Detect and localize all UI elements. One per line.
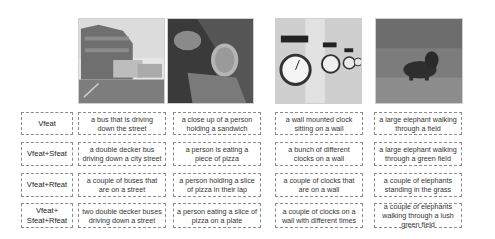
caption-cell: a couple of clocks on a wall with differ… [275,203,363,228]
caption-cell: a large elephant walking through a field [374,112,462,135]
image-street-buses [78,18,165,104]
caption-cell: a person is eating a piece of pizza [173,142,261,166]
caption-cell: a person holding a slice of pizza in the… [173,173,261,197]
image-elephant-field [375,18,463,104]
method-label-vfeat-sfeat: Vfeat+Sfeat [21,142,73,166]
image-wall-clocks [275,18,362,104]
method-label-vfeat-rfeat: Vfeat+Rfeat [21,173,73,197]
caption-cell: two double decker buses driving down a s… [78,203,166,228]
caption-cell: a person eating a slice of pizza on a pl… [173,203,261,228]
caption-cell: a close up of a person holding a sandwic… [173,112,261,135]
caption-cell: a bus that is driving down the street [78,112,166,135]
caption-cell: a wall mounted clock sitting on a wall [275,112,363,135]
caption-cell: a double decker bus driving down a city … [78,142,166,166]
caption-cell: a couple of elephants standing in the gr… [374,173,462,197]
caption-cell: a couple of buses that are on a street [78,173,166,197]
caption-cell: a couple of elephants walking through a … [374,203,462,228]
method-label-vfeat: Vfeat [21,112,73,135]
caption-cell: a couple of clocks that are on a wall [275,173,363,197]
caption-cell: a large elephant walking through a green… [374,142,462,166]
caption-cell: a bunch of different clocks on a wall [275,142,363,166]
method-label-vfeat-sfeat-rfeat: Vfeat+ Sfeat+Rfeat [21,203,73,228]
image-person-pizza [167,18,254,104]
